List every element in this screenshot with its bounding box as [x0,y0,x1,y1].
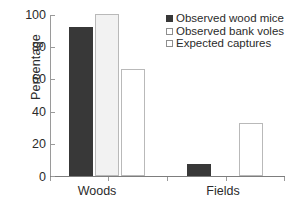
chart-legend: Observed wood mice Observed bank voles E… [166,13,284,50]
legend-item-expected-captures: Expected captures [166,38,284,50]
y-axis-line [50,15,51,177]
y-tick-mark-100 [51,15,55,16]
x-tick-mark-left [50,177,51,181]
x-tick-mark-1 [108,177,109,181]
legend-swatch-icon-expected-captures [166,40,173,47]
bar-woods-series-1 [95,14,119,176]
y-tick-mark-20 [51,144,55,145]
bar-woods-series-0 [69,27,93,176]
legend-item-observed-bank-voles: Observed bank voles [166,26,284,38]
y-tick-label-40: 40 [12,106,46,119]
legend-label-expected-captures: Expected captures [176,38,271,50]
x-tick-mark-center [167,177,168,181]
y-tick-label-100: 100 [12,9,46,22]
legend-label-observed-bank-voles: Observed bank voles [176,26,284,38]
x-category-label-woods: Woods [78,184,117,198]
bar-woods-series-2 [121,69,145,176]
y-tick-mark-80 [51,47,55,48]
y-axis-tick-labels: 100 80 60 40 20 0 [12,0,46,214]
legend-swatch-icon-observed-bank-voles [166,28,173,35]
y-tick-mark-60 [51,79,55,80]
y-tick-mark-40 [51,112,55,113]
x-tick-mark-right [284,177,285,181]
bar-chart-figure: Percentage 100 80 60 40 20 0 Woods Field… [0,0,301,214]
bar-fields-series-2 [239,123,263,176]
legend-swatch-icon-observed-wood-mice [166,15,173,22]
bar-fields-series-0 [187,164,211,176]
x-tick-mark-2 [226,177,227,181]
legend-label-observed-wood-mice: Observed wood mice [176,13,284,25]
y-tick-label-0: 0 [12,171,46,184]
y-tick-label-80: 80 [12,41,46,54]
y-tick-label-60: 60 [12,73,46,86]
legend-item-observed-wood-mice: Observed wood mice [166,13,284,25]
y-tick-label-20: 20 [12,138,46,151]
x-category-label-fields: Fields [206,184,239,198]
y-tick-mark-0 [51,176,55,177]
